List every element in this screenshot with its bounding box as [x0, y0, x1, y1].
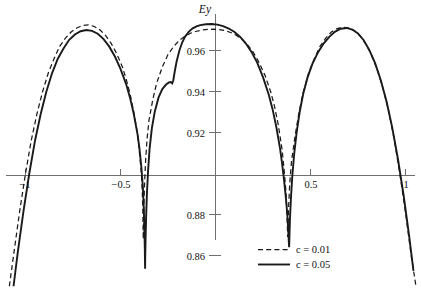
x-tick-label-1: 1 [403, 179, 408, 190]
y-tick-label-0.94: 0.94 [187, 87, 206, 98]
chart-canvas: −1 −0.5 0.5 1 0.96 0.94 0.92 0.88 0.86 E… [0, 0, 421, 293]
axes [6, 14, 415, 240]
series-line-c-0-05 [14, 24, 414, 286]
x-tick-label-0.5: 0.5 [304, 179, 317, 190]
y-tick-label-0.88: 0.88 [187, 210, 205, 221]
legend-label-c-0-05: c = 0.05 [296, 259, 330, 270]
legend-label-c-0-01: c = 0.01 [296, 244, 330, 255]
series-line-c-0-01 [9, 25, 416, 286]
x-tick-label-neg0.5: −0.5 [111, 179, 130, 190]
y-tick-label-0.96: 0.96 [187, 46, 205, 57]
chart-figure: −1 −0.5 0.5 1 0.96 0.94 0.92 0.88 0.86 E… [0, 0, 421, 293]
legend: c = 0.01 c = 0.05 [258, 244, 330, 270]
x-tick-labels: −1 −0.5 0.5 1 [19, 179, 408, 190]
y-axis-title: Ey [198, 3, 212, 16]
y-tick-label-0.86: 0.86 [187, 251, 205, 262]
y-tick-labels: 0.96 0.94 0.92 0.88 0.86 [187, 46, 206, 262]
y-tick-label-0.92: 0.92 [187, 128, 205, 139]
